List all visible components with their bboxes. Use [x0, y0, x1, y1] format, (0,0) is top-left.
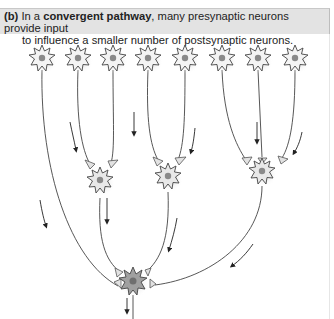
presynaptic-neuron-6 [209, 45, 237, 74]
axons [42, 70, 295, 319]
intermediate-neurons [87, 158, 277, 196]
postsynaptic-neuron [119, 267, 149, 298]
presynaptic-neuron-4 [135, 45, 163, 74]
presynaptic-neuron-7 [245, 45, 273, 74]
intermediate-neuron-3 [249, 158, 277, 187]
presynaptic-neuron-3 [100, 45, 128, 74]
presynaptic-neuron-8 [282, 45, 310, 74]
presynaptic-neuron-1 [29, 45, 57, 74]
presynaptic-neurons [29, 45, 310, 74]
figure-panel: (b) In a convergent pathway, many presyn… [0, 0, 334, 319]
presynaptic-neuron-2 [65, 45, 93, 74]
presynaptic-neuron-5 [172, 45, 200, 74]
intermediate-neuron-2 [155, 163, 183, 192]
convergent-pathway-diagram [0, 0, 334, 319]
intermediate-neuron-1 [87, 167, 115, 196]
